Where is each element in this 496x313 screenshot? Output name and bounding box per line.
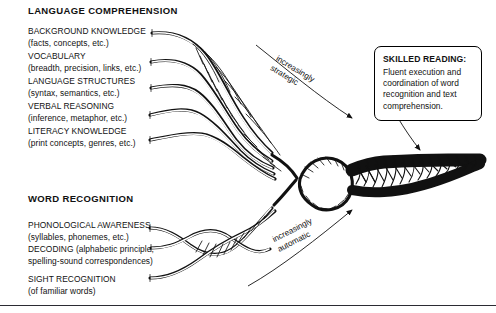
increasingly-automatic-label: increasingly automatic	[271, 216, 319, 254]
strand-vocabulary: VOCABULARY (breadth, precision, links, e…	[28, 51, 180, 74]
upper-twist-hatching	[196, 48, 281, 171]
strand-verbal-reasoning: VERBAL REASONING (inference, metaphor, e…	[28, 101, 180, 124]
strand-decoding: DECODING (alphabetic principle, spelling…	[28, 244, 180, 267]
strand-sight-recognition: SIGHT RECOGNITION (of familiar words)	[28, 274, 180, 297]
callout-body: Fluent execution and coordination of wor…	[383, 67, 473, 113]
skilled-reading-callout: SKILLED READING: Fluent execution and co…	[374, 46, 482, 121]
increasingly-strategic-label: increasingly strategic	[268, 54, 316, 94]
lower-strands	[150, 208, 275, 278]
braid-texture	[356, 156, 476, 187]
strand-detail: (syntax, semantics, etc.)	[28, 88, 180, 100]
strand-language-structures: LANGUAGE STRUCTURES (syntax, semantics, …	[28, 76, 180, 99]
lower-twist-hatching	[196, 211, 271, 257]
strand-detail: (of familiar words)	[28, 286, 180, 298]
strand-detail: spelling-sound correspondences)	[28, 256, 180, 268]
strand-background-knowledge: BACKGROUND KNOWLEDGE (facts, concepts, e…	[28, 26, 180, 49]
strand-title: LITERACY KNOWLEDGE	[28, 126, 180, 138]
strand-detail: (inference, metaphor, etc.)	[28, 113, 180, 125]
central-knot	[272, 155, 352, 210]
strand-literacy-knowledge: LITERACY KNOWLEDGE (print concepts, genr…	[28, 126, 180, 149]
strand-detail: (print concepts, genres, etc.)	[28, 138, 180, 150]
strand-title: VOCABULARY	[28, 51, 180, 63]
strand-title: VERBAL REASONING	[28, 101, 180, 113]
strand-title: LANGUAGE STRUCTURES	[28, 76, 180, 88]
strand-phonological-awareness: PHONOLOGICAL AWARENESS (syllables, phone…	[28, 220, 180, 243]
upper-twist-outlines	[193, 44, 280, 155]
strand-title: PHONOLOGICAL AWARENESS	[28, 220, 180, 232]
callout-title: SKILLED READING:	[383, 54, 473, 66]
strand-detail: (syllables, phonemes, etc.)	[28, 232, 180, 244]
language-comprehension-heading: LANGUAGE COMPREHENSION	[28, 5, 178, 16]
strand-title: SIGHT RECOGNITION	[28, 274, 180, 286]
strand-title: DECODING (alphabetic principle,	[28, 244, 180, 256]
bottom-rule	[0, 305, 496, 306]
strand-detail: (breadth, precision, links, etc.)	[28, 63, 180, 75]
strand-title: BACKGROUND KNOWLEDGE	[28, 26, 180, 38]
strand-detail: (facts, concepts, etc.)	[28, 38, 180, 50]
word-recognition-heading: WORD RECOGNITION	[28, 193, 133, 204]
right-braid	[352, 156, 480, 192]
knot-hatching	[301, 157, 352, 209]
callout-leader-arrow	[398, 118, 420, 150]
reading-rope-diagram: LANGUAGE COMPREHENSION BACKGROUND KNOWLE…	[0, 0, 496, 313]
